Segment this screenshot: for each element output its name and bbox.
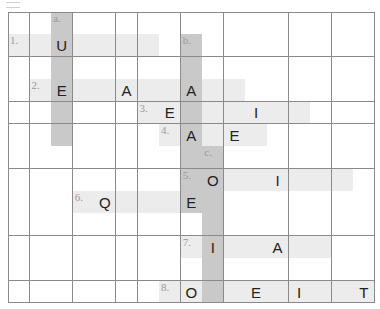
grid-cell[interactable] (332, 102, 354, 125)
grid-cell[interactable] (8, 102, 30, 125)
grid-cell[interactable] (138, 213, 160, 236)
grid-cell[interactable] (289, 12, 311, 35)
grid-cell[interactable] (159, 169, 181, 192)
grid-cell[interactable] (51, 191, 73, 214)
across-start-cell[interactable]: 6. (73, 191, 95, 214)
grid-cell[interactable] (289, 236, 311, 259)
grid-cell[interactable] (73, 102, 95, 125)
grid-cell[interactable]: A (181, 79, 203, 102)
grid-cell[interactable] (51, 213, 73, 236)
grid-cell[interactable] (245, 79, 267, 102)
grid-cell[interactable] (8, 57, 30, 80)
grid-cell[interactable] (116, 213, 138, 236)
grid-cell[interactable] (202, 258, 224, 281)
grid-cell[interactable] (267, 12, 289, 35)
grid-cell[interactable] (116, 57, 138, 80)
grid-cell[interactable]: I (289, 281, 311, 304)
grid-cell[interactable] (245, 57, 267, 80)
grid-cell[interactable] (94, 79, 116, 102)
grid-cell[interactable] (94, 213, 116, 236)
grid-cell[interactable] (245, 258, 267, 281)
grid-cell[interactable] (310, 34, 332, 57)
grid-cell[interactable]: T (353, 281, 375, 304)
grid-cell[interactable] (30, 146, 52, 169)
grid-cell[interactable] (51, 57, 73, 80)
grid-cell[interactable] (224, 281, 246, 304)
grid-cell[interactable] (8, 12, 30, 35)
grid-cell[interactable] (289, 169, 311, 192)
grid-cell[interactable]: A (267, 236, 289, 259)
grid-cell[interactable] (224, 79, 246, 102)
grid-cell[interactable]: b. (181, 34, 203, 57)
grid-cell[interactable]: A (181, 124, 203, 147)
grid-cell[interactable] (138, 34, 160, 57)
grid-cell[interactable] (267, 191, 289, 214)
grid-cell[interactable] (332, 146, 354, 169)
grid-cell[interactable] (8, 281, 30, 304)
grid-cell[interactable]: O (202, 169, 224, 192)
grid-cell[interactable] (267, 258, 289, 281)
grid-cell[interactable] (202, 34, 224, 57)
grid-cell[interactable] (245, 34, 267, 57)
grid-cell[interactable] (51, 124, 73, 147)
grid-cell[interactable] (30, 12, 52, 35)
across-start-cell[interactable]: 4. (159, 124, 181, 147)
grid-cell[interactable]: I (245, 102, 267, 125)
grid-cell[interactable] (267, 281, 289, 304)
grid-cell[interactable]: U (51, 34, 73, 57)
grid-cell[interactable] (94, 169, 116, 192)
grid-cell[interactable] (116, 102, 138, 125)
grid-cell[interactable] (138, 57, 160, 80)
grid-cell[interactable] (310, 124, 332, 147)
grid-cell[interactable]: I (267, 169, 289, 192)
grid-cell[interactable] (30, 124, 52, 147)
grid-cell[interactable] (245, 12, 267, 35)
grid-cell[interactable] (202, 12, 224, 35)
grid-cell[interactable] (30, 34, 52, 57)
grid-cell[interactable] (289, 34, 311, 57)
grid-cell[interactable] (289, 102, 311, 125)
grid-cell[interactable] (138, 79, 160, 102)
grid-cell[interactable] (353, 12, 375, 35)
across-start-cell[interactable]: 2. (30, 79, 52, 102)
grid-cell[interactable]: E (224, 124, 246, 147)
grid-cell[interactable] (30, 191, 52, 214)
grid-cell[interactable] (202, 281, 224, 304)
grid-cell[interactable] (353, 57, 375, 80)
grid-cell[interactable] (51, 169, 73, 192)
grid-cell[interactable] (202, 213, 224, 236)
grid-cell[interactable] (267, 102, 289, 125)
grid-cell[interactable] (73, 236, 95, 259)
grid-cell[interactable] (245, 146, 267, 169)
grid-cell[interactable] (289, 213, 311, 236)
grid-cell[interactable] (138, 281, 160, 304)
grid-cell[interactable] (116, 146, 138, 169)
grid-cell[interactable] (138, 12, 160, 35)
grid-cell[interactable] (30, 258, 52, 281)
grid-cell[interactable] (94, 236, 116, 259)
grid-cell[interactable] (310, 146, 332, 169)
grid-cell[interactable]: A (116, 79, 138, 102)
grid-cell[interactable] (116, 191, 138, 214)
grid-cell[interactable] (267, 34, 289, 57)
across-start-cell[interactable]: 7. (181, 236, 203, 259)
grid-cell[interactable] (159, 57, 181, 80)
grid-cell[interactable] (116, 258, 138, 281)
grid-cell[interactable]: O (181, 281, 203, 304)
grid-cell[interactable] (245, 124, 267, 147)
grid-cell[interactable] (94, 146, 116, 169)
grid-cell[interactable] (51, 236, 73, 259)
grid-cell[interactable] (267, 124, 289, 147)
grid-cell[interactable] (73, 146, 95, 169)
grid-cell[interactable] (138, 124, 160, 147)
grid-cell[interactable] (30, 236, 52, 259)
grid-cell[interactable] (310, 281, 332, 304)
grid-cell[interactable] (332, 236, 354, 259)
grid-cell[interactable] (224, 12, 246, 35)
grid-cell[interactable] (8, 79, 30, 102)
grid-cell[interactable] (159, 236, 181, 259)
grid-cell[interactable] (94, 57, 116, 80)
grid-cell[interactable] (310, 12, 332, 35)
grid-cell[interactable] (73, 258, 95, 281)
grid-cell[interactable] (138, 146, 160, 169)
